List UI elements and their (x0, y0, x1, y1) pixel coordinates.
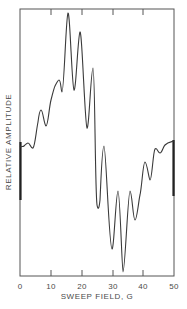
x-axis-top-ticks (51, 9, 143, 15)
plot-frame (20, 9, 174, 276)
x-axis-title: SWEEP FIELD, G (61, 292, 134, 301)
spectrum-line (20, 13, 174, 272)
x-axis-ticks (51, 270, 143, 276)
x-tick-labels: 0 10 20 30 40 50 (18, 282, 179, 291)
chart: 0 10 20 30 40 50 SWEEP FIELD, G RELATIVE… (0, 0, 187, 309)
x-tick-20: 20 (77, 282, 87, 291)
x-tick-30: 30 (108, 282, 118, 291)
x-tick-0: 0 (18, 282, 23, 291)
x-tick-40: 40 (138, 282, 148, 291)
x-tick-10: 10 (46, 282, 56, 291)
x-tick-50: 50 (169, 282, 179, 291)
y-axis-title: RELATIVE AMPLITUDE (4, 94, 13, 190)
